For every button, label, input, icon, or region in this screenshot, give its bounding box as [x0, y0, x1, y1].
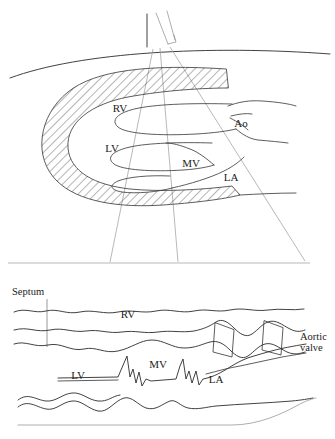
mmode-trace-anterior-wall: [14, 309, 304, 313]
sector-label-rv: RV: [113, 102, 127, 114]
figure-canvas: RV LV Ao MV LA Septum: [0, 0, 335, 439]
mmode-label-septum: Septum: [12, 286, 44, 297]
sector-label-mv: MV: [182, 157, 200, 169]
mmode-trace-septum-posterior: [14, 340, 305, 358]
mmode-trace-lv-baseline: [58, 380, 118, 381]
sector-label-la: LA: [224, 171, 239, 183]
mmode-trace-mitral-valve: [58, 344, 306, 386]
sector-panel: RV LV Ao MV LA: [0, 0, 335, 280]
mmode-trace-posterior-wall-lower: [18, 398, 313, 412]
echocardiogram-figure: RV LV Ao MV LA Septum: [0, 0, 335, 439]
mmode-label-aortic-valve-line2: valve: [300, 342, 323, 353]
myocardium-hatched-region: [0, 0, 335, 280]
aortic-valve-box-pattern: [213, 321, 283, 357]
mmode-label-rv: RV: [121, 308, 135, 320]
mmode-label-la: LA: [209, 373, 224, 385]
mmode-trace-septum-anterior: [14, 320, 305, 335]
sector-label-lv: LV: [105, 142, 119, 154]
mmode-label-aortic-valve-line1: Aortic: [300, 331, 327, 342]
mmode-label-lv: LV: [71, 369, 85, 381]
mmode-trace-la-posterior: [206, 353, 306, 374]
sector-label-ao: Ao: [234, 117, 248, 129]
mmode-trace-posterior-wall-upper: [18, 393, 120, 401]
mmode-panel: Septum RV LV MV LA Aortic valve: [12, 286, 327, 425]
mmode-label-mv: MV: [149, 358, 167, 370]
